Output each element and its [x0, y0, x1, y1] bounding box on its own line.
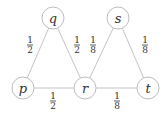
weight-denominator: 2	[27, 45, 33, 55]
node-t: t	[137, 77, 159, 99]
node-label: q	[49, 11, 57, 26]
edge-s-t	[122, 28, 143, 78]
node-r: r	[74, 77, 96, 99]
weight-denominator: 8	[114, 101, 120, 111]
node-label: s	[115, 11, 122, 26]
weight-numerator: 1	[142, 35, 148, 45]
edge-weight-q-p: 12	[27, 35, 33, 55]
weight-numerator: 1	[114, 91, 120, 101]
nodes: qsprt	[12, 7, 159, 99]
weight-denominator: 8	[90, 45, 96, 55]
weight-denominator: 2	[50, 101, 56, 111]
node-label: t	[145, 81, 151, 96]
node-label: r	[82, 81, 89, 96]
weighted-graph-diagram: 121218181218 qsprt	[0, 0, 167, 118]
weight-denominator: 2	[74, 45, 80, 55]
weight-numerator: 1	[74, 35, 80, 45]
edge-weight-r-t: 18	[114, 91, 120, 111]
edge-weight-s-t: 18	[142, 35, 148, 55]
weight-numerator: 1	[90, 35, 96, 45]
node-p: p	[12, 77, 34, 99]
edge-weight-p-r: 12	[50, 91, 56, 111]
node-q: q	[42, 7, 64, 29]
node-label: p	[19, 81, 28, 96]
weight-numerator: 1	[50, 91, 56, 101]
edge-weight-q-r: 12	[74, 35, 80, 55]
weight-denominator: 8	[142, 45, 148, 55]
weight-numerator: 1	[27, 35, 33, 45]
edge-weight-s-r: 18	[90, 35, 96, 55]
node-s: s	[107, 7, 129, 29]
